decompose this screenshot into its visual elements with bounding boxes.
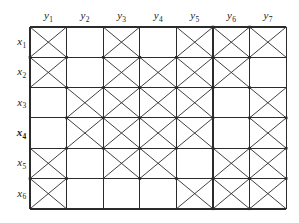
row-header-subscript: 6 — [23, 192, 27, 201]
grid-vertex-dot — [139, 177, 142, 180]
grid-vertex-dot — [248, 26, 251, 29]
grid-vertex-dot — [285, 177, 288, 180]
grid-vertex-dot — [175, 147, 178, 150]
row-header-x4: x4 — [2, 127, 26, 138]
row-header-subscript: 3 — [23, 101, 27, 110]
column-header-y5: y5 — [176, 10, 213, 21]
column-header-subscript: 6 — [232, 15, 236, 24]
column-header-y1: y1 — [30, 10, 67, 21]
grid-vertex-dot — [102, 117, 105, 120]
row-header-x2: x2 — [2, 66, 26, 77]
grid-vertex-dot — [29, 56, 32, 59]
grid-vertex-dot — [175, 117, 178, 120]
grid-vertex-dot — [102, 147, 105, 150]
row-header-label: x — [17, 156, 22, 168]
grid-vertex-dot — [102, 56, 105, 59]
grid-vertex-dot — [212, 117, 215, 120]
row-header-x5: x5 — [2, 157, 26, 168]
grid-vertex-dot — [139, 147, 142, 150]
column-header-label: y — [190, 9, 195, 21]
grid-vertex-dot — [248, 177, 251, 180]
row-header-subscript: 2 — [23, 71, 27, 80]
grid-vertex-dot — [248, 86, 251, 89]
grid-vertex-dot — [65, 147, 68, 150]
column-header-subscript: 4 — [159, 15, 163, 24]
grid-vertex-dot — [248, 117, 251, 120]
grid-vertex-dot — [212, 208, 215, 211]
grid-vertex-dot — [29, 177, 32, 180]
grid-vertex-dot — [65, 86, 68, 89]
grid-vertex-dot — [212, 26, 215, 29]
row-header-subscript: 5 — [23, 162, 27, 171]
grid-vertex-dot — [65, 56, 68, 59]
column-header-y4: y4 — [140, 10, 177, 21]
grid-vertex-dot — [212, 86, 215, 89]
column-header-y2: y2 — [67, 10, 104, 21]
column-header-y7: y7 — [250, 10, 287, 21]
grid-vertex-dot — [248, 208, 251, 211]
row-header-label: x — [17, 35, 22, 47]
row-header-x1: x1 — [2, 36, 26, 47]
column-header-y6: y6 — [213, 10, 250, 21]
row-header-subscript: 4 — [23, 132, 27, 141]
row-header-x3: x3 — [2, 97, 26, 108]
column-header-label: y — [81, 9, 86, 21]
grid-vertex-dot — [175, 56, 178, 59]
grid-diagram-figure: y1y2y3y4y5y6y7x1x2x3x4x5x6 — [0, 0, 299, 223]
row-header-label: x — [17, 96, 22, 108]
grid-vertex-dot — [139, 86, 142, 89]
grid-vertex-dot — [175, 86, 178, 89]
grid-vertex-dot — [65, 117, 68, 120]
column-header-label: y — [154, 9, 159, 21]
grid-vertex-dot — [248, 147, 251, 150]
column-header-subscript: 7 — [269, 15, 273, 24]
column-header-subscript: 2 — [86, 15, 90, 24]
row-header-x6: x6 — [2, 188, 26, 199]
grid-vertex-dot — [139, 56, 142, 59]
grid-vertex-dot — [102, 86, 105, 89]
grid-vertex-dot — [65, 177, 68, 180]
grid-vertex-dot — [212, 177, 215, 180]
grid-vertex-dot — [139, 117, 142, 120]
column-header-subscript: 3 — [122, 15, 126, 24]
column-header-y3: y3 — [103, 10, 140, 21]
grid-vertex-dot — [285, 147, 288, 150]
grid-vertex-dot — [175, 177, 178, 180]
grid-vertex-dot — [212, 147, 215, 150]
grid-vertex-dot — [248, 56, 251, 59]
column-header-subscript: 1 — [49, 15, 53, 24]
grid-vertex-dot — [285, 117, 288, 120]
column-header-label: y — [264, 9, 269, 21]
row-header-label: x — [17, 65, 22, 77]
grid-svg — [0, 0, 299, 223]
column-header-subscript: 5 — [196, 15, 200, 24]
grid-vertex-dot — [212, 56, 215, 59]
row-header-label: x — [17, 187, 22, 199]
row-header-label: x — [17, 126, 23, 138]
row-header-subscript: 1 — [23, 41, 27, 50]
